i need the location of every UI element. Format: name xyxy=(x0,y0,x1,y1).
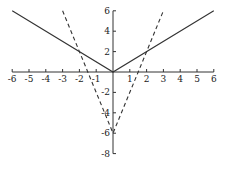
x-tick-label: -5 xyxy=(25,74,34,84)
x-tick-label: 4 xyxy=(177,74,183,84)
ticks: -6-5-4-3-2-1123456642-2-4-6-8 xyxy=(8,6,217,159)
x-tick-label: 3 xyxy=(161,74,167,84)
y-tick-label: 6 xyxy=(104,6,110,16)
y-tick-label: -8 xyxy=(101,149,110,159)
y-tick-label: -2 xyxy=(101,87,110,97)
chart: -6-5-4-3-2-1123456642-2-4-6-8 xyxy=(0,0,225,169)
x-tick-label: -1 xyxy=(92,74,101,84)
y-tick-label: 4 xyxy=(104,26,110,36)
y-tick-label: 2 xyxy=(104,47,110,57)
x-tick-label: -3 xyxy=(58,74,67,84)
x-tick-label: -4 xyxy=(41,74,50,84)
x-tick-label: -2 xyxy=(75,74,84,84)
y-tick-label: -6 xyxy=(101,128,110,138)
x-tick-label: 5 xyxy=(194,74,200,84)
x-tick-label: 6 xyxy=(211,74,217,84)
x-tick-label: 2 xyxy=(144,74,150,84)
x-tick-label: 1 xyxy=(127,74,133,84)
x-tick-label: -6 xyxy=(8,74,17,84)
